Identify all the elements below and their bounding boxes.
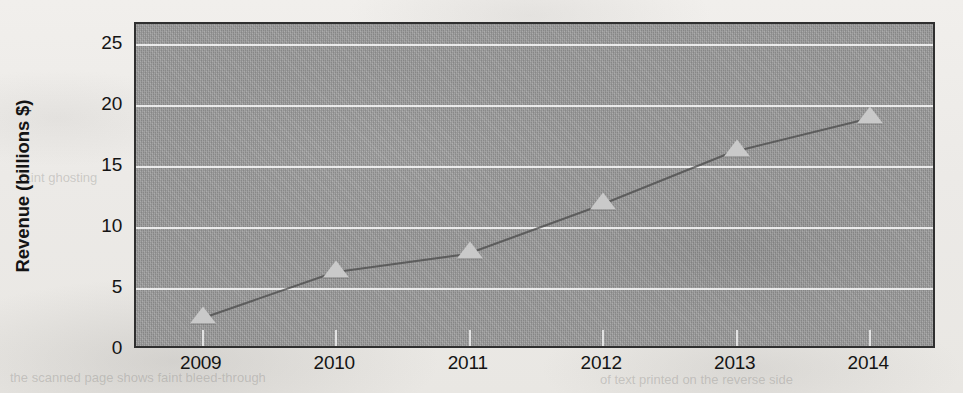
data-point-marker [590, 193, 616, 210]
y-tick-label: 25 [62, 32, 122, 54]
revenue-line-chart: Revenue (billions $) 0510152025 20092010… [0, 0, 963, 393]
y-tick-label: 10 [62, 215, 122, 237]
x-tick-label: 2010 [274, 352, 394, 374]
x-tick-label: 2014 [808, 352, 928, 374]
x-tick-label: 2011 [408, 352, 528, 374]
y-tick-label: 15 [62, 154, 122, 176]
x-tick-mark [335, 330, 337, 346]
y-axis-title: Revenue (billions $) [12, 21, 34, 351]
x-tick-label: 2012 [541, 352, 661, 374]
gridline [136, 288, 933, 290]
x-tick-mark [602, 330, 604, 346]
x-axis-tick-labels: 200920102011201220132014 [134, 352, 935, 386]
line-segment [603, 150, 737, 206]
line-segment [469, 204, 603, 255]
data-point-marker [457, 242, 483, 259]
y-tick-label: 20 [62, 93, 122, 115]
gridline [136, 105, 933, 107]
data-point-marker [190, 306, 216, 323]
x-tick-label: 2013 [675, 352, 795, 374]
x-tick-label: 2009 [141, 352, 261, 374]
line-segment [737, 117, 871, 152]
x-tick-mark [469, 330, 471, 346]
data-point-marker [323, 260, 349, 277]
line-segment [336, 252, 470, 272]
y-tick-label: 0 [62, 337, 122, 359]
x-tick-mark [736, 330, 738, 346]
line-segment [202, 271, 336, 319]
gridline [136, 44, 933, 46]
x-tick-mark [869, 330, 871, 346]
gridline [136, 166, 933, 168]
data-point-marker [857, 106, 883, 123]
x-tick-mark [202, 330, 204, 346]
y-tick-label: 5 [62, 276, 122, 298]
y-axis-tick-labels: 0510152025 [62, 22, 122, 348]
data-point-marker [724, 139, 750, 156]
plot-area [134, 22, 935, 348]
